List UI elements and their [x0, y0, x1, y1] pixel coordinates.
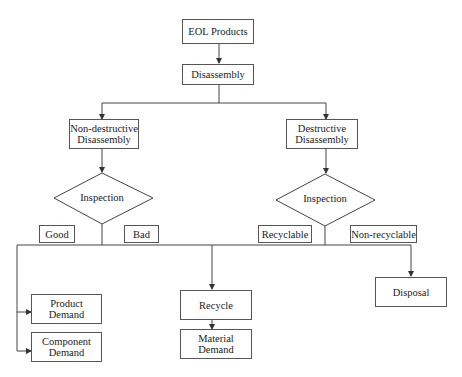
material-demand-node: Material Demand: [180, 329, 252, 359]
eol-products-node: EOL Products: [182, 19, 254, 44]
component-demand-node: Component Demand: [31, 332, 102, 362]
disassembly-node: Disassembly: [182, 64, 254, 85]
disposal-node: Disposal: [375, 277, 447, 307]
non-destructive-disassembly-node: Non-destructive Disassembly: [69, 119, 139, 149]
non-recyclable-label: Non-recyclable: [350, 225, 417, 243]
inspection-left-label: Inspection: [62, 192, 142, 203]
bad-label: Bad: [124, 225, 159, 243]
product-demand-node: Product Demand: [31, 294, 102, 324]
inspection-right-label: Inspection: [285, 193, 365, 204]
recycle-node: Recycle: [180, 290, 252, 320]
recyclable-label: Recyclable: [258, 225, 312, 243]
good-label: Good: [39, 225, 75, 243]
destructive-disassembly-node: Destructive Disassembly: [286, 119, 358, 149]
